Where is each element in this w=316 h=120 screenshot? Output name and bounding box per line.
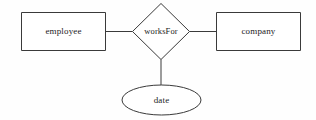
- entity-employee[interactable]: employee: [22, 13, 106, 51]
- er-diagram-canvas: employee worksFor company date: [0, 0, 316, 120]
- attribute-date-label: date: [154, 95, 170, 105]
- attribute-date[interactable]: date: [122, 85, 201, 115]
- entity-company[interactable]: company: [217, 13, 301, 51]
- entity-company-label: company: [241, 26, 275, 36]
- er-diagram-svg: employee worksFor company date: [0, 0, 316, 120]
- entity-employee-label: employee: [45, 26, 81, 36]
- relationship-worksfor-label: worksFor: [144, 26, 177, 36]
- relationship-worksfor[interactable]: worksFor: [133, 4, 190, 60]
